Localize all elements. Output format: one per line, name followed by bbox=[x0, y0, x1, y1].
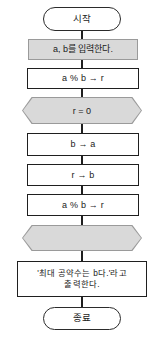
connector-start-to-input bbox=[81, 31, 83, 39]
connector-blank-to-output bbox=[81, 251, 83, 261]
process-box-assign-b-to-a: b → a bbox=[27, 133, 139, 156]
shaded-hexagon-condition-label: r = 0 bbox=[22, 97, 142, 124]
shaded-hexagon-condition: r = 0 bbox=[22, 97, 142, 124]
process-box-assign-b-to-a-label: b → a bbox=[70, 139, 95, 149]
process-box-output-label: '최대 공약수는 b다.'라고 출력한다. bbox=[37, 268, 127, 290]
process-box-assign-r-to-b: r → b bbox=[27, 164, 139, 186]
process-box-mod1: a % b → r bbox=[27, 68, 139, 89]
terminal-end: 종료 bbox=[43, 307, 121, 330]
connector-output-to-end bbox=[81, 297, 83, 307]
connector-cond-to-assign-b bbox=[81, 124, 83, 133]
process-box-mod1-label: a % b → r bbox=[62, 73, 104, 83]
terminal-end-label: 종료 bbox=[73, 313, 91, 324]
shaded-hexagon-blank-label bbox=[22, 225, 142, 251]
connector-assign-b-to-assign-r bbox=[81, 156, 83, 164]
connector-assign-r-to-mod2 bbox=[81, 186, 83, 194]
flowchart-diagram: 시작 a, b를 입력한다. a % b → r r = 0 b → a r →… bbox=[0, 0, 164, 337]
shaded-box-input-label: a, b를 입력한다. bbox=[53, 44, 113, 54]
process-box-output: '최대 공약수는 b다.'라고 출력한다. bbox=[17, 261, 147, 297]
process-box-mod2: a % b → r bbox=[27, 194, 139, 216]
process-box-assign-r-to-b-label: r → b bbox=[71, 170, 94, 180]
terminal-start: 시작 bbox=[43, 7, 121, 31]
connector-mod1-to-cond bbox=[81, 89, 83, 97]
process-box-mod2-label: a % b → r bbox=[62, 200, 104, 210]
shaded-box-input: a, b를 입력한다. bbox=[28, 39, 138, 60]
connector-mod2-to-blank bbox=[81, 216, 83, 225]
terminal-start-label: 시작 bbox=[73, 14, 91, 25]
shaded-hexagon-blank bbox=[22, 225, 142, 251]
connector-input-to-mod1 bbox=[81, 60, 83, 68]
